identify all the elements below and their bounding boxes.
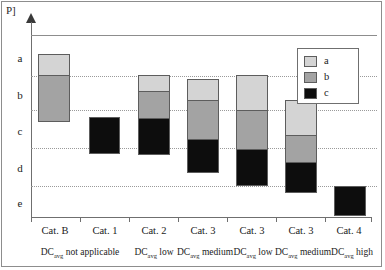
x-sublabel-3: DCavg low (134, 247, 173, 259)
x-tick-3 (178, 217, 179, 222)
x-sublabel-5: DCavg low (233, 247, 272, 259)
bar-segment-b (38, 75, 70, 122)
x-tick-7 (371, 217, 372, 222)
x-sublabel-subscript: avg (54, 252, 63, 259)
bar-segment-c (187, 139, 219, 173)
x-category-label-2: Cat. 1 (92, 225, 117, 236)
x-sublabel-6: DCavg medium (275, 247, 331, 259)
bar-segment-b (285, 135, 317, 163)
x-sublabel-subscript: avg (148, 252, 157, 259)
bar-segment-a (236, 75, 268, 111)
y-tick-label-c: c (13, 125, 27, 137)
x-sublabel-1: DCavg not applicable (41, 247, 120, 259)
legend-item-b[interactable]: b (304, 69, 358, 85)
bar-group-5[interactable] (236, 75, 268, 187)
x-sublabel-subscript: avg (247, 252, 256, 259)
x-sublabel-prefix: DC (41, 247, 54, 257)
x-sublabel-suffix: medium (200, 247, 234, 257)
x-category-label-4: Cat. 3 (190, 225, 215, 236)
x-sublabel-prefix: DC (275, 247, 288, 257)
x-tick-0 (31, 217, 32, 222)
bar-segment-b (236, 110, 268, 150)
x-sublabel-subscript: avg (190, 252, 199, 259)
x-sublabel-7: DCavg high (331, 247, 373, 259)
x-sublabel-suffix: low (256, 247, 273, 257)
y-tick-label-d: d (13, 162, 27, 174)
x-sublabel-prefix: DC (331, 247, 344, 257)
legend-swatch-c-icon (304, 88, 317, 99)
bar-group-3[interactable] (138, 75, 170, 155)
y-axis-title: P] (6, 4, 16, 16)
bar-group-6[interactable] (285, 100, 317, 195)
legend: a b c (297, 48, 359, 104)
bar-segment-b (138, 91, 170, 119)
x-tick-6 (325, 217, 326, 222)
y-tick-label-a: a (13, 52, 27, 64)
x-sublabel-suffix: high (354, 247, 373, 257)
x-sublabel-subscript: avg (288, 252, 297, 259)
legend-label-a: a (324, 56, 329, 67)
bar-segment-c (334, 186, 366, 216)
x-sublabel-subscript: avg (344, 252, 353, 259)
x-tick-5 (276, 217, 277, 222)
bar-group-4[interactable] (187, 79, 219, 174)
bar-segment-c (236, 149, 268, 186)
x-sublabel-prefix: DC (233, 247, 246, 257)
y-tick-label-e: e (13, 197, 27, 209)
x-tick-2 (129, 217, 130, 222)
legend-label-c: c (324, 88, 329, 99)
legend-label-b: b (324, 72, 329, 83)
bar-segment-c (89, 117, 120, 154)
x-sublabel-prefix: DC (134, 247, 147, 257)
legend-item-c[interactable]: c (304, 85, 358, 101)
x-sublabel-4: DCavg medium (177, 247, 233, 259)
x-axis-line (31, 217, 371, 218)
bar-segment-a (38, 54, 70, 76)
bar-group-1[interactable] (38, 54, 70, 122)
x-category-label-7: Cat. 4 (336, 225, 361, 236)
x-category-label-3: Cat. 2 (141, 225, 166, 236)
bar-segment-a (187, 79, 219, 101)
legend-swatch-a-icon (304, 56, 317, 67)
bar-group-7[interactable] (334, 186, 366, 216)
bar-group-2[interactable] (89, 117, 120, 154)
bar-segment-a (285, 100, 317, 136)
chart-container: P] a b c d e (0, 0, 385, 270)
x-sublabel-suffix: medium (298, 247, 332, 257)
x-category-label-5: Cat. 3 (239, 225, 264, 236)
x-tick-1 (80, 217, 81, 222)
bar-segment-a (138, 75, 170, 92)
legend-swatch-b-icon (304, 72, 317, 83)
bar-segment-c (138, 118, 170, 155)
x-sublabel-suffix: not applicable (63, 247, 119, 257)
y-tick-label-b: b (13, 89, 27, 101)
bar-segment-b (187, 100, 219, 140)
x-sublabel-suffix: low (157, 247, 174, 257)
x-category-label-6: Cat. 3 (288, 225, 313, 236)
legend-item-a[interactable]: a (304, 53, 358, 69)
x-sublabel-prefix: DC (177, 247, 190, 257)
x-category-label-1: Cat. B (42, 225, 69, 236)
bar-segment-c (285, 162, 317, 193)
x-tick-4 (227, 217, 228, 222)
